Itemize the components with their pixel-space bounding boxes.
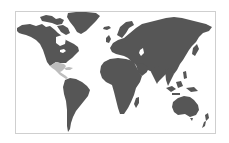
region-new-guinea[interactable] [186, 87, 198, 92]
region-madagascar[interactable] [134, 97, 139, 108]
region-greenland[interactable] [67, 12, 100, 34]
region-japan[interactable] [192, 44, 199, 56]
region-canadian-arctic[interactable] [40, 15, 64, 25]
region-united-kingdom[interactable] [106, 35, 111, 43]
region-baffin-island[interactable] [57, 25, 70, 35]
map-canvas: Mexico / Central America [0, 0, 229, 143]
region-north-america[interactable] [17, 24, 79, 66]
region-java[interactable] [172, 93, 180, 95]
region-tasmania[interactable] [190, 118, 193, 121]
region-mexico-central-america[interactable] [50, 62, 68, 79]
world-map [0, 0, 229, 143]
region-iceland[interactable] [103, 26, 111, 30]
region-new-zealand[interactable] [202, 113, 209, 128]
region-borneo[interactable] [176, 81, 183, 88]
region-indonesia[interactable] [166, 86, 176, 92]
region-caribbean[interactable] [64, 67, 73, 70]
region-philippines[interactable] [183, 71, 187, 79]
region-australia[interactable] [172, 96, 199, 117]
region-south-america[interactable] [63, 78, 90, 132]
